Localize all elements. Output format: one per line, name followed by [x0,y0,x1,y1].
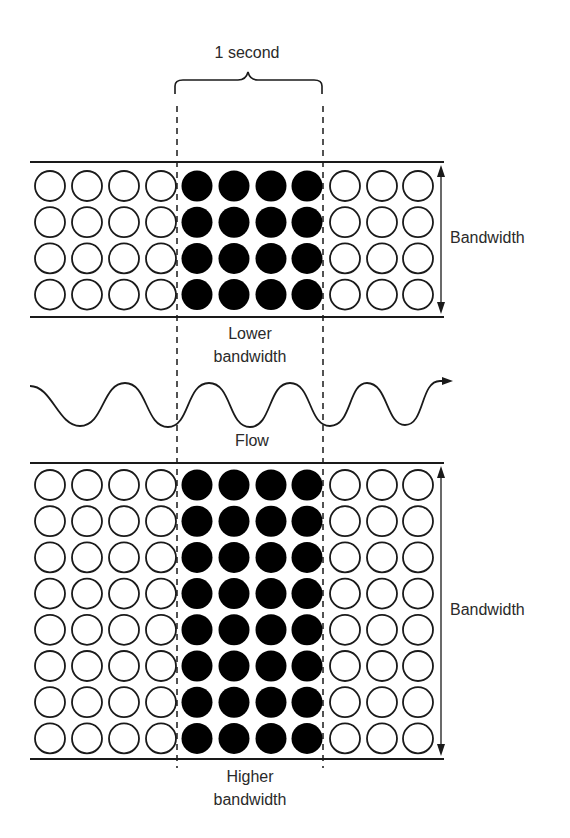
packet-empty [35,579,65,609]
lower-label-line2: bandwidth [214,348,287,365]
packet-filled [256,542,287,573]
double-arrow-icon [437,466,445,756]
packet-empty [403,243,433,273]
packet-empty [72,207,102,237]
packet-empty [146,615,176,645]
packet-grid-bottom [35,470,433,754]
packet-empty [35,542,65,572]
packet-empty [72,651,102,681]
packet-empty [35,687,65,717]
packet-filled [256,723,287,754]
packet-empty [330,579,360,609]
packet-empty [367,470,397,500]
packet-filled [182,243,213,274]
flow-label: Flow [235,432,269,449]
packet-empty [109,171,139,201]
packet-filled [292,243,323,274]
packet-empty [109,243,139,273]
packet-filled [219,243,250,274]
packet-filled [256,279,287,310]
packet-empty [72,615,102,645]
packet-filled [219,687,250,718]
packet-empty [72,243,102,273]
packet-filled [182,506,213,537]
packet-filled [219,171,250,202]
packet-filled [182,171,213,202]
packet-filled [292,723,323,754]
packet-empty [330,171,360,201]
packet-filled [292,542,323,573]
packet-filled [256,207,287,238]
packet-empty [146,506,176,536]
packet-empty [109,579,139,609]
packet-filled [182,687,213,718]
packet-empty [72,171,102,201]
packet-filled [256,243,287,274]
lower-bandwidth-band: Bandwidth [30,162,525,317]
packet-empty [146,470,176,500]
higher-bandwidth-band: Bandwidth [30,463,525,759]
packet-empty [367,207,397,237]
packet-empty [367,651,397,681]
packet-empty [146,243,176,273]
packet-empty [367,171,397,201]
packet-filled [256,651,287,682]
packet-empty [403,280,433,310]
packet-filled [256,506,287,537]
packet-empty [330,506,360,536]
packet-empty [367,579,397,609]
packet-empty [403,506,433,536]
packet-filled [219,207,250,238]
packet-empty [109,506,139,536]
packet-filled [256,614,287,645]
packet-empty [403,542,433,572]
packet-filled [292,614,323,645]
packet-empty [146,280,176,310]
packet-filled [182,207,213,238]
packet-empty [367,280,397,310]
packet-empty [367,506,397,536]
packet-empty [35,470,65,500]
higher-label-line1: Higher [226,768,274,785]
packet-empty [367,615,397,645]
packet-empty [109,723,139,753]
packet-filled [182,542,213,573]
packet-empty [367,723,397,753]
packet-filled [292,578,323,609]
packet-empty [330,470,360,500]
packet-empty [330,243,360,273]
packet-filled [256,578,287,609]
packet-empty [72,506,102,536]
packet-filled [219,470,250,501]
packet-empty [403,470,433,500]
packet-empty [109,542,139,572]
packet-empty [109,615,139,645]
packet-empty [35,615,65,645]
packet-empty [72,280,102,310]
packet-empty [367,687,397,717]
packet-filled [182,614,213,645]
packet-filled [182,470,213,501]
packet-empty [330,615,360,645]
packet-empty [109,280,139,310]
packet-empty [109,651,139,681]
packet-filled [292,506,323,537]
packet-filled [219,651,250,682]
packet-empty [403,687,433,717]
packet-empty [72,470,102,500]
packet-empty [367,243,397,273]
packet-filled [182,723,213,754]
curly-brace-icon [175,72,322,94]
packet-filled [292,171,323,202]
packet-empty [403,651,433,681]
packet-empty [330,651,360,681]
packet-filled [219,542,250,573]
packet-filled [292,279,323,310]
packet-empty [72,579,102,609]
packet-filled [292,470,323,501]
packet-empty [403,723,433,753]
packet-empty [146,651,176,681]
packet-empty [146,687,176,717]
packet-empty [35,171,65,201]
packet-empty [403,171,433,201]
